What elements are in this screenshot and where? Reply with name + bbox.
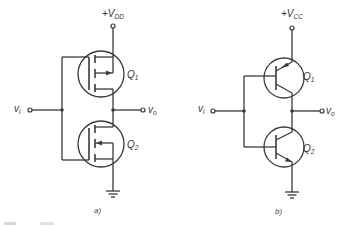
caption-b: b) xyxy=(275,207,282,216)
vcc-terminal xyxy=(290,26,294,30)
vdd-label: +VDD xyxy=(102,8,124,20)
ground-icon-b xyxy=(285,192,299,198)
vi-label-b: vi xyxy=(198,103,205,115)
q1-label: Q1 xyxy=(127,69,139,81)
cutoff-caption-fragment xyxy=(40,222,54,225)
vo-terminal[interactable] xyxy=(141,108,145,112)
ground-icon xyxy=(106,191,120,197)
output-junction xyxy=(111,108,115,112)
q1-mosfet-icon xyxy=(78,51,124,97)
vi-terminal[interactable] xyxy=(28,108,32,112)
input-junction xyxy=(60,108,64,112)
vo-label: vo xyxy=(148,104,157,116)
q2-label: Q2 xyxy=(127,139,139,151)
q2-bjt-label: Q2 xyxy=(303,143,315,155)
cutoff-caption-fragment xyxy=(4,222,16,225)
output-junction-b xyxy=(290,109,294,113)
circuit-a: +VDD Q1 vi xyxy=(14,8,157,215)
q1-pnp-bjt-icon xyxy=(264,58,304,98)
vo-terminal-b[interactable] xyxy=(320,109,324,113)
q1-bjt-label: Q1 xyxy=(303,71,315,83)
q2-npn-bjt-icon xyxy=(264,127,304,167)
caption-a: a) xyxy=(94,206,101,215)
vdd-terminal xyxy=(111,24,115,28)
vo-label-b: vo xyxy=(326,105,335,117)
circuit-b: +VCC Q1 vi vo xyxy=(198,8,335,216)
vi-label: vi xyxy=(14,103,21,115)
complementary-push-pull-circuits: +VDD Q1 vi xyxy=(0,0,347,227)
vcc-label: +VCC xyxy=(281,8,303,20)
input-junction-b xyxy=(242,109,246,113)
vi-terminal-b[interactable] xyxy=(211,109,215,113)
